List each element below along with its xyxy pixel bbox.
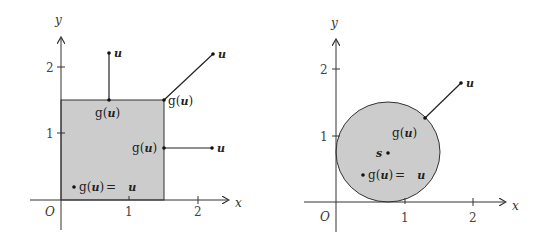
y-tick-label-1: 1 bbox=[46, 127, 54, 141]
projection-line-outside bbox=[425, 83, 461, 118]
label-u-right: u bbox=[217, 142, 225, 155]
point-u-top bbox=[107, 51, 111, 55]
y-axis-label: y bbox=[54, 13, 62, 27]
point-center-s bbox=[386, 151, 390, 155]
label-gu-corner: g(u) bbox=[168, 94, 193, 108]
label-u-outside: u bbox=[466, 77, 474, 90]
origin-label: O bbox=[45, 205, 55, 219]
label-gu-right: g(u) bbox=[132, 141, 157, 155]
figure-disk: 1 2 1 2 x y O u g(u) s g(u)=u bbox=[304, 16, 519, 232]
x-tick-label-2: 2 bbox=[469, 211, 477, 225]
x-axis-label: x bbox=[235, 196, 242, 210]
point-u-corner bbox=[211, 52, 215, 56]
point-interior bbox=[72, 185, 76, 189]
label-u-corner: u bbox=[218, 48, 226, 61]
label-gu-top: g(u) bbox=[95, 106, 120, 120]
x-axis-label: x bbox=[512, 199, 519, 213]
point-u-right bbox=[210, 146, 214, 150]
label-u-top: u bbox=[114, 47, 122, 60]
origin-label: O bbox=[320, 210, 330, 224]
point-gu-top bbox=[107, 98, 111, 102]
figure-square: 1 2 1 2 x y O u g(u) u g(u) u g(u) g(u)=… bbox=[30, 13, 242, 230]
x-tick-label-2: 2 bbox=[194, 205, 202, 219]
label-interior: g(u)=u bbox=[79, 180, 136, 194]
point-gu-right bbox=[162, 146, 166, 150]
diagram-canvas: 1 2 1 2 x y O u g(u) u g(u) u g(u) g(u)=… bbox=[0, 0, 546, 246]
label-s: s bbox=[376, 147, 382, 160]
y-tick-label-2: 2 bbox=[320, 63, 328, 77]
y-tick-label-1: 1 bbox=[320, 130, 328, 144]
label-interior: g(u)=u bbox=[368, 168, 425, 182]
x-tick-label-1: 1 bbox=[125, 205, 133, 219]
y-axis-label: y bbox=[330, 16, 338, 30]
x-tick-label-1: 1 bbox=[401, 211, 409, 225]
point-u-outside bbox=[459, 81, 463, 85]
point-gu-outside bbox=[423, 116, 427, 120]
point-gu-corner bbox=[162, 98, 166, 102]
label-gu-outside: g(u) bbox=[392, 126, 417, 140]
point-interior bbox=[361, 173, 365, 177]
y-tick-label-2: 2 bbox=[46, 61, 54, 75]
